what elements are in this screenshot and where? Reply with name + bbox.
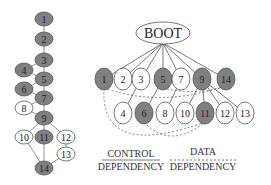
left-node-13: 13 bbox=[57, 147, 75, 161]
right-bottom-node-4: 4 bbox=[114, 102, 132, 124]
left-node-2: 2 bbox=[35, 32, 53, 46]
right-bottom-node-12: 12 bbox=[216, 102, 234, 124]
right-top-node-9: 9 bbox=[193, 68, 211, 90]
node-label: 3 bbox=[139, 74, 144, 85]
node-label: 10 bbox=[19, 132, 29, 143]
node-label: 7 bbox=[179, 74, 184, 85]
node-label: 11 bbox=[200, 108, 210, 119]
right-top-node-3: 3 bbox=[132, 68, 150, 90]
node-label: 6 bbox=[22, 84, 27, 95]
right-bottom-node-6: 6 bbox=[135, 102, 153, 124]
right-top-node-7: 7 bbox=[172, 68, 190, 90]
node-label: 14 bbox=[39, 163, 49, 174]
node-label: 7 bbox=[42, 93, 47, 104]
node-label: 11 bbox=[39, 132, 49, 143]
node-label: 5 bbox=[42, 74, 47, 85]
boot-label: BOOT bbox=[144, 26, 183, 41]
legend-control-label-2: DEPENDENCY bbox=[98, 161, 165, 172]
left-node-11: 11 bbox=[35, 130, 53, 144]
left-node-9: 9 bbox=[35, 111, 53, 125]
node-label: 8 bbox=[163, 108, 168, 119]
left-node-12: 12 bbox=[57, 130, 75, 144]
left-node-5: 5 bbox=[35, 72, 53, 86]
legend-data-label-1: DATA bbox=[190, 146, 217, 157]
right-top-node-2: 2 bbox=[114, 68, 132, 90]
node-label: 1 bbox=[42, 14, 47, 25]
dependency-diagram: 1234567891011121314 BOOT1235791446810111… bbox=[0, 0, 271, 185]
left-node-8: 8 bbox=[15, 101, 33, 115]
left-graph-nodes: 1234567891011121314 bbox=[15, 12, 75, 175]
legend-control-label-1: CONTROL bbox=[107, 148, 154, 159]
right-bottom-node-8: 8 bbox=[156, 102, 174, 124]
node-label: 13 bbox=[61, 149, 71, 160]
left-node-6: 6 bbox=[15, 82, 33, 96]
left-node-10: 10 bbox=[15, 130, 33, 144]
node-label: 14 bbox=[221, 74, 231, 85]
right-graph-nodes: BOOT1235791446810111213 bbox=[95, 22, 254, 124]
node-label: 10 bbox=[180, 108, 190, 119]
data-edge-6-11 bbox=[144, 122, 205, 136]
node-label: 4 bbox=[121, 108, 126, 119]
node-label: 2 bbox=[121, 74, 126, 85]
right-top-node-1: 1 bbox=[95, 68, 113, 90]
node-label: 9 bbox=[200, 74, 205, 85]
legend-data-label-2: DEPENDENCY bbox=[170, 161, 237, 172]
node-label: 13 bbox=[240, 108, 250, 119]
node-label: 1 bbox=[102, 74, 107, 85]
right-bottom-node-13: 13 bbox=[236, 102, 254, 124]
left-node-14: 14 bbox=[35, 161, 53, 175]
node-label: 2 bbox=[42, 34, 47, 45]
node-label: 3 bbox=[42, 55, 47, 66]
left-node-4: 4 bbox=[15, 63, 33, 77]
left-node-3: 3 bbox=[35, 53, 53, 67]
node-label: 5 bbox=[161, 74, 166, 85]
legend: CONTROL DEPENDENCY DATA DEPENDENCY bbox=[98, 146, 237, 172]
right-bottom-node-11: 11 bbox=[196, 102, 214, 124]
node-label: 12 bbox=[61, 132, 71, 143]
node-label: 12 bbox=[220, 108, 230, 119]
right-top-node-14: 14 bbox=[217, 68, 235, 90]
right-bottom-node-10: 10 bbox=[176, 102, 194, 124]
node-label: 8 bbox=[22, 103, 27, 114]
left-node-7: 7 bbox=[35, 91, 53, 105]
node-label: 6 bbox=[142, 108, 147, 119]
right-top-node-5: 5 bbox=[154, 68, 172, 90]
node-label: 9 bbox=[42, 113, 47, 124]
boot-node: BOOT bbox=[136, 22, 190, 44]
node-label: 4 bbox=[22, 65, 27, 76]
left-node-1: 1 bbox=[35, 12, 53, 26]
